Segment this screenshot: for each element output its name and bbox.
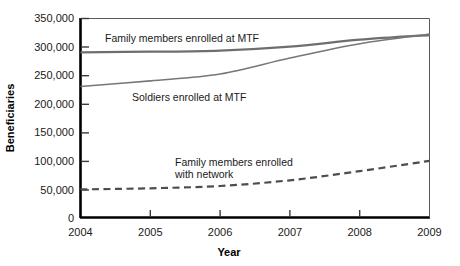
ytick-label-150000: 150,000 bbox=[34, 126, 74, 138]
xtick-label-2008: 2008 bbox=[347, 226, 371, 238]
xtick-label-2005: 2005 bbox=[138, 226, 162, 238]
ytick-label-200000: 200,000 bbox=[34, 98, 74, 110]
ytick-label-350000: 350,000 bbox=[34, 12, 74, 24]
ytick-label-0: 0 bbox=[68, 212, 74, 224]
ytick-label-300000: 300,000 bbox=[34, 41, 74, 53]
ytick-label-100000: 100,000 bbox=[34, 155, 74, 167]
annotation-family-network-1: Family members enrolled bbox=[175, 156, 293, 168]
beneficiaries-line-chart: 350,000 300,000 250,000 200,000 150,000 … bbox=[0, 0, 460, 266]
chart-figure: 350,000 300,000 250,000 200,000 150,000 … bbox=[0, 0, 460, 266]
y-axis-title: Beneficiaries bbox=[4, 84, 16, 152]
annotation-family-network-2: with network bbox=[174, 168, 234, 180]
ytick-label-50000: 50,000 bbox=[40, 184, 74, 196]
xtick-label-2009: 2009 bbox=[417, 226, 441, 238]
ytick-label-250000: 250,000 bbox=[34, 69, 74, 81]
annotation-soldiers-mtf: Soldiers enrolled at MTF bbox=[132, 91, 246, 103]
x-axis-title: Year bbox=[217, 246, 241, 258]
xtick-label-2007: 2007 bbox=[278, 226, 302, 238]
xtick-label-2004: 2004 bbox=[68, 226, 92, 238]
annotation-family-mtf: Family members enrolled at MTF bbox=[105, 32, 259, 44]
xtick-label-2006: 2006 bbox=[208, 226, 232, 238]
